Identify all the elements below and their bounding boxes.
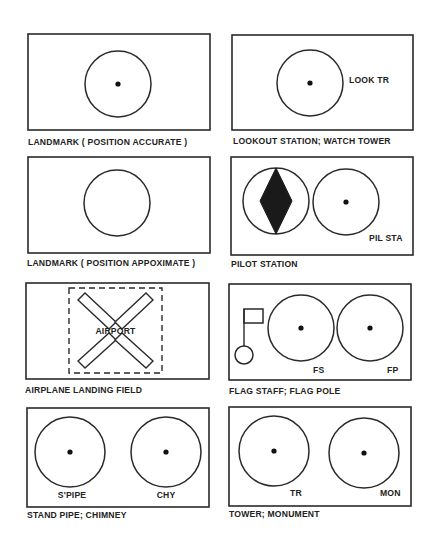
label-tr: TR — [290, 488, 302, 498]
panel-flag-staff: FS FP FLAG STAFF; FLAG POLE — [229, 284, 411, 396]
panel-frame — [27, 408, 209, 507]
panel-landmark-accurate: LANDMARK ( POSITION ACCURATE ) — [28, 34, 210, 147]
label-fs: FS — [313, 365, 324, 375]
center-dot-icon — [307, 80, 312, 85]
panel-tower-monument: TR MON TOWER; MONUMENT — [229, 407, 411, 519]
caption-pilot-station: PILOT STATION — [231, 259, 298, 269]
label-chy: CHY — [157, 490, 176, 500]
center-dot-icon — [361, 450, 366, 455]
center-dot-icon — [343, 199, 348, 204]
center-dot-icon — [271, 448, 276, 453]
label-fp: FP — [387, 365, 398, 375]
caption-landmark-accurate: LANDMARK ( POSITION ACCURATE ) — [28, 137, 187, 147]
flag-icon — [235, 309, 263, 364]
caption-stand-pipe: STAND PIPE; CHIMNEY — [27, 510, 127, 520]
panel-airplane-landing-field: AIRPORT AIRPLANE LANDING FIELD — [25, 283, 209, 395]
center-dot-icon — [67, 449, 72, 454]
caption-lookout-station: LOOKOUT STATION; WATCH TOWER — [233, 136, 391, 146]
landmark-circle-icon — [84, 170, 150, 236]
panel-stand-pipe: S'PIPE CHY STAND PIPE; CHIMNEY — [27, 408, 209, 520]
label-s-pipe: S'PIPE — [58, 490, 87, 500]
label-airport: AIRPORT — [95, 326, 136, 336]
label-look-tr: LOOK TR — [349, 75, 390, 85]
panel-pilot-station: PIL STA PILOT STATION — [231, 157, 413, 269]
panel-frame — [28, 157, 210, 253]
caption-airplane-landing-field: AIRPLANE LANDING FIELD — [25, 385, 142, 395]
center-dot-icon — [298, 325, 303, 330]
caption-tower-monument: TOWER; MONUMENT — [229, 509, 320, 519]
diamond-icon — [260, 168, 292, 234]
center-dot-icon — [367, 325, 372, 330]
panel-landmark-approximate: LANDMARK ( POSITION APPOXIMATE ) — [27, 157, 210, 268]
label-pil-sta: PIL STA — [369, 233, 403, 243]
panel-lookout-station: LOOK TR LOOKOUT STATION; WATCH TOWER — [232, 35, 413, 146]
center-dot-icon — [115, 81, 120, 86]
caption-flag-staff: FLAG STAFF; FLAG POLE — [229, 386, 341, 396]
caption-landmark-approximate: LANDMARK ( POSITION APPOXIMATE ) — [27, 258, 195, 268]
chart-symbols-legend: LANDMARK ( POSITION ACCURATE ) LOOK TR L… — [0, 0, 431, 544]
center-dot-icon — [163, 449, 168, 454]
label-mon: MON — [380, 488, 401, 498]
